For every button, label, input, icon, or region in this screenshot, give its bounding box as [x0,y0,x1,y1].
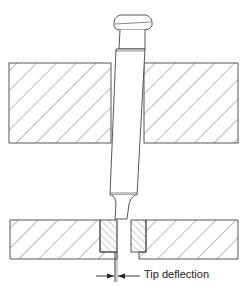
upper-plate-right [144,63,238,143]
upper-plate-left [9,63,111,143]
punch-tip [112,195,135,219]
die-bushing-left [100,220,117,252]
punch-body [110,49,145,195]
die-bushing-right [131,220,146,252]
punch-neck [119,30,145,49]
tip-deflection-label: Tip deflection [144,268,209,280]
punch-deflection-diagram [0,0,249,287]
lower-plate-right [139,220,238,259]
